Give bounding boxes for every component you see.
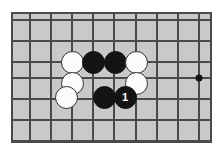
go-stone-white[interactable] — [61, 51, 84, 74]
go-stone-black[interactable] — [93, 86, 116, 109]
go-stone-black[interactable] — [82, 51, 105, 74]
go-stone-black-labeled-1[interactable]: 1 — [114, 86, 137, 109]
go-diagram-page: 1 — [0, 0, 222, 153]
go-stone-black[interactable] — [104, 51, 127, 74]
stone-move-number: 1 — [115, 87, 136, 108]
go-board-frame — [11, 12, 212, 143]
go-stone-white[interactable] — [125, 51, 148, 74]
go-stone-white[interactable] — [55, 86, 78, 109]
